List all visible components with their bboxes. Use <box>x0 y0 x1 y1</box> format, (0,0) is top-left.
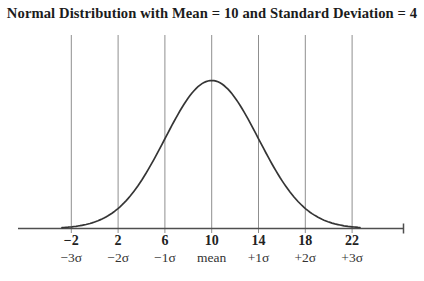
chart-canvas <box>0 0 424 281</box>
normal-distribution-figure: Normal Distribution with Mean = 10 and S… <box>0 0 424 281</box>
normal-curve <box>62 81 360 228</box>
